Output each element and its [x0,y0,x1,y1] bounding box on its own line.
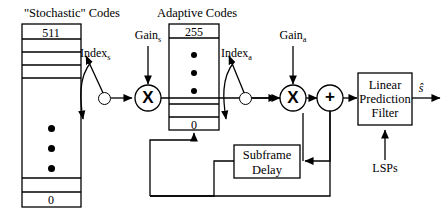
stochastic-selector-pivot[interactable] [98,92,111,105]
subframe-delay-line-1: Subframe [243,149,292,162]
gain-adaptive-text: Gain [280,28,303,42]
adaptive-codebook-top-index: 255 [185,26,203,38]
index-adaptive-text: Index [221,46,248,60]
index-stochastic-subscript: s [107,53,110,62]
adaptive-codebook-title: Adaptive Codes [157,7,237,20]
multiplier-stochastic-glyph: X [142,89,153,106]
lp-filter-line-2: Prediction [359,93,410,106]
codec-block-diagram: "Stochastic" Codes Adaptive Codes 511 0 … [0,0,448,220]
adaptive-selector-sweep [224,62,234,119]
gain-adaptive-subscript: a [303,35,307,44]
wire-subframe-delay-out [150,161,234,196]
adaptive-codebook-bottom-index: 0 [191,119,197,131]
gain-adaptive-label: Gaina [280,29,307,45]
index-stochastic-label: Indexs [80,47,111,63]
lsps-label: LSPs [372,162,397,174]
wire-feedback-into-adaptive-codebook [150,133,194,196]
gain-stochastic-text: Gain [135,28,158,42]
stochastic-codebook-top-index: 511 [42,27,60,39]
adaptive-selector-pivot[interactable] [239,92,252,105]
output-signal-label: ŝ [419,82,424,94]
stochastic-codebook-bottom-index: 0 [48,194,54,206]
adder-glyph: + [325,88,335,105]
gain-stochastic-label: Gains [135,29,162,45]
stochastic-selector-sweep [81,62,91,119]
gain-stochastic-subscript: s [158,35,161,44]
index-adaptive-subscript: a [248,53,252,62]
wire-adder-to-subframe-delay [305,111,330,161]
multiplier-adaptive-glyph: X [287,89,298,106]
index-adaptive-label: Indexa [221,47,252,63]
index-stochastic-text: Index [80,46,107,60]
stochastic-codebook-title: "Stochastic" Codes [24,7,120,20]
adaptive-codebook-box [169,24,219,130]
subframe-delay-line-2: Delay [252,164,282,177]
lp-filter-line-1: Linear [369,79,402,92]
lp-filter-line-3: Filter [371,107,398,120]
